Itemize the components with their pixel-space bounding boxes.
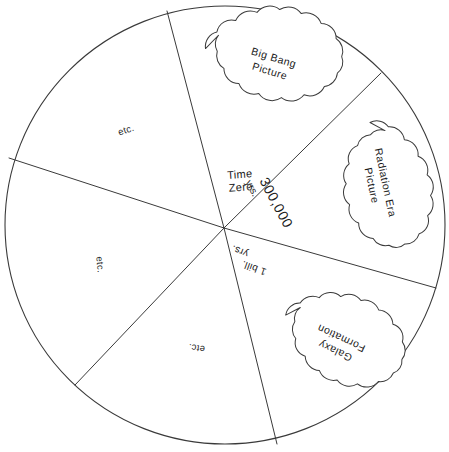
time-zero-line1: Time [227,167,253,181]
cloud-big-bang: Big Bang Picture [199,0,349,110]
etc-lower-text: etc. [188,342,206,355]
mark-1bill-number: 1 bill. [240,259,268,278]
spoke-lower-left [75,228,224,385]
label-etc-upper-left: etc. [116,122,135,138]
time-wheel-diagram: Big Bang Picture Radiation Era Picture G… [0,0,449,452]
mark-300k-number: 300,000 [256,175,296,231]
label-1-bill-yrs: 1 bill. yrs. [226,243,271,277]
etc-left-text: etc. [94,256,107,274]
spoke-left [9,158,224,228]
cloud-radiation-era: Radiation Era Picture [330,112,444,256]
mark-1bill-unit: yrs. [230,243,250,259]
label-300000-yrs: 300,000 yrs. [243,170,296,236]
cloud-galaxy-formation: Galaxy Formation [268,271,420,405]
etc-upper-left-text: etc. [116,122,135,138]
wheel-canvas: Big Bang Picture Radiation Era Picture G… [0,0,449,452]
label-etc-left: etc. [94,256,107,274]
label-etc-lower: etc. [188,342,206,355]
spoke-galaxy-lower [224,228,277,444]
